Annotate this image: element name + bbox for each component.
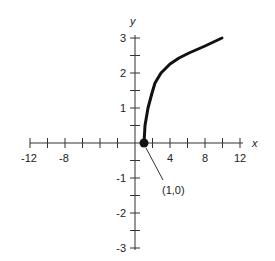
x-axis-label: x <box>251 137 258 149</box>
sqrt-curve <box>144 38 222 143</box>
y-tick-label: 3 <box>120 32 126 44</box>
x-tick-label: -8 <box>59 152 69 164</box>
y-tick-label: -1 <box>116 172 126 184</box>
chart: x y -12 -8 4 8 12 3 2 1 -1 -2 -3 (1,0) <box>0 0 275 261</box>
y-tick-label: 2 <box>120 67 126 79</box>
x-tick-labels: -12 -8 4 8 12 <box>21 152 246 164</box>
y-tick-label: 1 <box>120 102 126 114</box>
x-tick-label: 8 <box>202 152 208 164</box>
x-tick-label: 4 <box>167 152 173 164</box>
y-tick-label: -2 <box>116 207 126 219</box>
chart-svg: x y -12 -8 4 8 12 3 2 1 -1 -2 -3 (1,0) <box>0 0 275 261</box>
x-tick-label: -12 <box>21 152 37 164</box>
x-tick-label: 12 <box>234 152 246 164</box>
point-marker <box>140 139 149 148</box>
y-tick-label: -3 <box>116 242 126 254</box>
y-axis-label: y <box>129 15 137 27</box>
annotation-leader-line <box>146 148 163 180</box>
point-label: (1,0) <box>162 184 185 196</box>
